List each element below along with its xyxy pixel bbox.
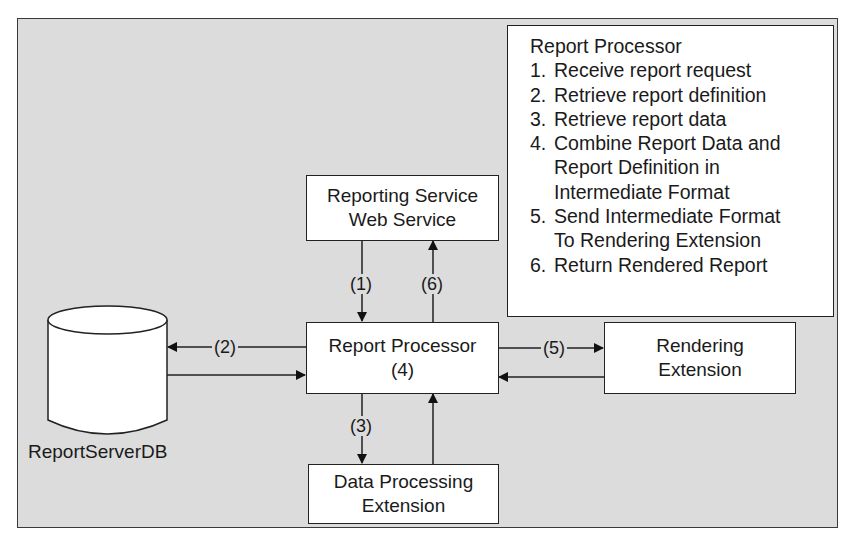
database-cylinder-icon (48, 306, 167, 434)
steps-panel: Report Processor 1. Receive report reque… (507, 25, 834, 317)
step-text: Combine Report Data and Report Definitio… (554, 131, 833, 204)
edge-label-step1: (1) (348, 274, 374, 294)
node-database-label: ReportServerDB (28, 441, 167, 463)
step-text: Return Rendered Report (554, 253, 833, 277)
step-number: 5. (530, 204, 554, 253)
step-text: Receive report request (554, 58, 833, 82)
node-report-processor: Report Processor (4) (306, 322, 499, 394)
edge-label-step3: (3) (348, 416, 374, 436)
node-rendering-extension: Rendering Extension (604, 322, 796, 394)
edge-label-step2: (2) (212, 337, 238, 357)
node-data-processing-line1: Data Processing (334, 470, 473, 494)
step-item: 2. Retrieve report definition (530, 83, 833, 107)
step-number: 2. (530, 83, 554, 107)
node-rendering-extension-line1: Rendering (656, 334, 744, 358)
node-web-service-line1: Reporting Service (327, 184, 478, 208)
node-web-service: Reporting Service Web Service (306, 175, 499, 241)
step-text: Retrieve report definition (554, 83, 833, 107)
node-data-processing-line2: Extension (362, 494, 445, 518)
step-number: 6. (530, 253, 554, 277)
step-number: 4. (530, 131, 554, 204)
step-text: Send Intermediate Format To Rendering Ex… (554, 204, 833, 253)
step-text: Retrieve report data (554, 107, 833, 131)
step-item: 5. Send Intermediate Format To Rendering… (530, 204, 833, 253)
edge-label-step6: (6) (419, 274, 445, 294)
steps-panel-title: Report Processor (530, 34, 833, 58)
step-item: 6. Return Rendered Report (530, 253, 833, 277)
node-rendering-extension-line2: Extension (658, 358, 741, 382)
step-number: 3. (530, 107, 554, 131)
node-data-processing: Data Processing Extension (308, 464, 499, 524)
step-item: 1. Receive report request (530, 58, 833, 82)
node-report-processor-line2: (4) (391, 358, 414, 382)
step-item: 4. Combine Report Data and Report Defini… (530, 131, 833, 204)
step-number: 1. (530, 58, 554, 82)
edge-label-step5: (5) (541, 338, 567, 358)
node-report-processor-line1: Report Processor (329, 334, 477, 358)
step-item: 3. Retrieve report data (530, 107, 833, 131)
node-web-service-line2: Web Service (349, 208, 456, 232)
